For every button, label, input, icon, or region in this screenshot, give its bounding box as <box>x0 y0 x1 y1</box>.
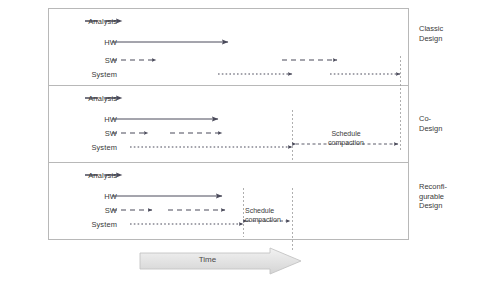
row-label-codesign-sw: SW <box>52 129 117 138</box>
side-label-classic-line2: Design <box>419 34 443 44</box>
row-label-reconfigurable-analysis: Analysis <box>52 171 117 180</box>
row-label-classic-analysis: Analysis <box>52 17 117 26</box>
side-label-classic-line1: Classic <box>419 24 443 34</box>
annotation-codesign-line2: compaction <box>309 139 383 148</box>
side-label-reconfigurable-design: Reconfi- gurable Design <box>419 182 447 211</box>
side-label-codesign-line1: Co- <box>419 114 442 124</box>
annotation-schedule-compaction-reconfigurable: Schedule compaction <box>245 207 317 224</box>
row-label-codesign-system: System <box>52 143 117 152</box>
row-label-codesign-analysis: Analysis <box>52 94 117 103</box>
annotation-codesign-line1: Schedule <box>309 130 383 139</box>
annotation-reconfigurable-line2: compaction <box>245 216 317 225</box>
design-flow-diagram: Analysis HW SW System Analysis HW SW Sys… <box>0 0 480 285</box>
side-label-reconfigurable-line2: gurable <box>419 192 447 202</box>
row-label-reconfigurable-system: System <box>52 220 117 229</box>
row-label-reconfigurable-sw: SW <box>52 206 117 215</box>
row-label-classic-system: System <box>52 70 117 79</box>
row-label-classic-hw: HW <box>52 38 117 47</box>
row-label-classic-sw: SW <box>52 56 117 65</box>
row-label-reconfigurable-hw: HW <box>52 192 117 201</box>
side-label-reconfigurable-line1: Reconfi- <box>419 182 447 192</box>
panel-classic-tasks <box>85 21 400 74</box>
side-label-reconfigurable-line3: Design <box>419 201 447 211</box>
row-label-codesign-hw: HW <box>52 115 117 124</box>
side-label-classic-design: Classic Design <box>419 24 443 43</box>
annotation-schedule-compaction-codesign: Schedule compaction <box>309 130 383 147</box>
side-label-co-design: Co- Design <box>419 114 442 133</box>
time-axis-label: Time <box>150 255 265 264</box>
annotation-reconfigurable-line1: Schedule <box>245 207 317 216</box>
side-label-codesign-line2: Design <box>419 124 442 134</box>
